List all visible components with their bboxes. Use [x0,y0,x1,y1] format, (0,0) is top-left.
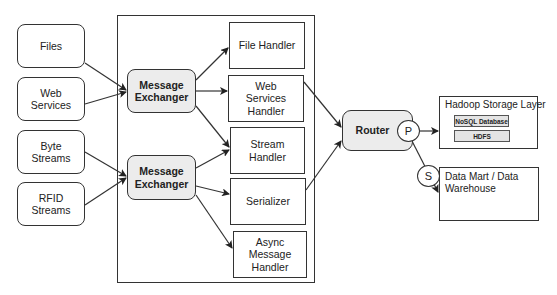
port-label: S [425,170,432,182]
router-label: Router [356,124,390,137]
store-title: Hadoop Storage Layer [445,99,546,110]
serializer: Serializer [230,178,306,225]
hdfs: HDFS [454,130,510,142]
secondary-port: S [417,165,440,187]
source-label: Files [40,40,62,53]
async-message-handler: Async Message Handler [233,231,307,278]
message-exchanger-2: Message Exchanger [127,155,196,200]
web-services-handler: Web Services Handler [228,75,304,122]
data-mart-warehouse: Data Mart / Data Warehouse [439,167,539,221]
primary-port: P [397,120,420,142]
port-label: P [405,125,412,137]
exchanger-label: Message Exchanger [134,79,189,104]
file-handler: File Handler [229,22,305,69]
message-exchanger-1: Message Exchanger [127,69,196,113]
source-label: Byte Streams [31,140,70,165]
store-title: Data Mart / Data Warehouse [445,171,525,195]
stream-handler: Stream Handler [230,127,305,174]
hadoop-storage-layer: Hadoop Storage Layer NoSQL Database HDFS [439,96,538,149]
source-rfid-streams: RFID Streams [17,182,85,226]
handler-label: Async Message Handler [248,236,292,274]
handler-label: Serializer [246,195,290,208]
handler-label: Stream Handler [249,138,286,163]
source-files: Files [17,24,85,68]
exchanger-label: Message Exchanger [134,165,189,190]
source-web-services: Web Services [17,77,85,121]
nosql-database: NoSQL Database [454,115,509,127]
handler-label: Web Services Handler [243,80,289,118]
source-label: RFID Streams [31,192,70,217]
source-label: Web Services [30,87,72,112]
handler-label: File Handler [239,39,296,52]
source-byte-streams: Byte Streams [17,130,85,174]
